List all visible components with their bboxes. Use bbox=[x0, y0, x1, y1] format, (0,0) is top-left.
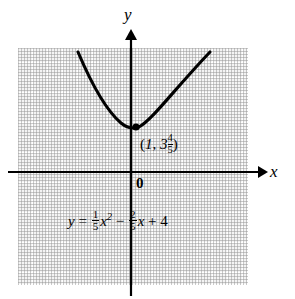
equation-second-coefficient-fraction: 25 bbox=[129, 209, 137, 233]
x-axis-label: x bbox=[270, 163, 278, 180]
vertex-y-whole: 3 bbox=[160, 136, 168, 152]
vertex-coordinate-label: (1, 345) bbox=[140, 133, 178, 155]
equation-coef2-numerator: 2 bbox=[129, 209, 137, 220]
equation-plus-sign: + bbox=[144, 213, 160, 229]
vertex-close-paren: ) bbox=[173, 136, 178, 152]
equation-first-coefficient-fraction: 15 bbox=[92, 209, 100, 233]
equation-equals-sign: = bbox=[75, 213, 91, 229]
y-axis-arrowhead bbox=[125, 29, 137, 40]
equation-coef2-denominator: 5 bbox=[129, 220, 137, 232]
vertex-x-value: 1 bbox=[145, 136, 153, 152]
equation-lhs: y bbox=[68, 213, 75, 229]
equation-variable-1: x bbox=[100, 213, 107, 229]
origin-label: 0 bbox=[136, 176, 144, 191]
equation-coef1-numerator: 1 bbox=[92, 209, 100, 220]
equation-label: y = 15x2 − 25x + 4 bbox=[68, 209, 168, 233]
equation-minus-sign: − bbox=[112, 213, 128, 229]
vertex-point-marker bbox=[132, 123, 139, 130]
equation-constant-term: 4 bbox=[160, 213, 168, 229]
x-axis-arrowhead bbox=[258, 166, 268, 178]
y-axis-label: y bbox=[124, 6, 132, 23]
equation-coef1-denominator: 5 bbox=[92, 220, 100, 232]
graph-figure: y x 0 (1, 345) y = 15x2 − 25x + 4 bbox=[0, 0, 295, 299]
vertex-comma: , bbox=[153, 136, 161, 152]
parabola-curve bbox=[78, 52, 210, 128]
